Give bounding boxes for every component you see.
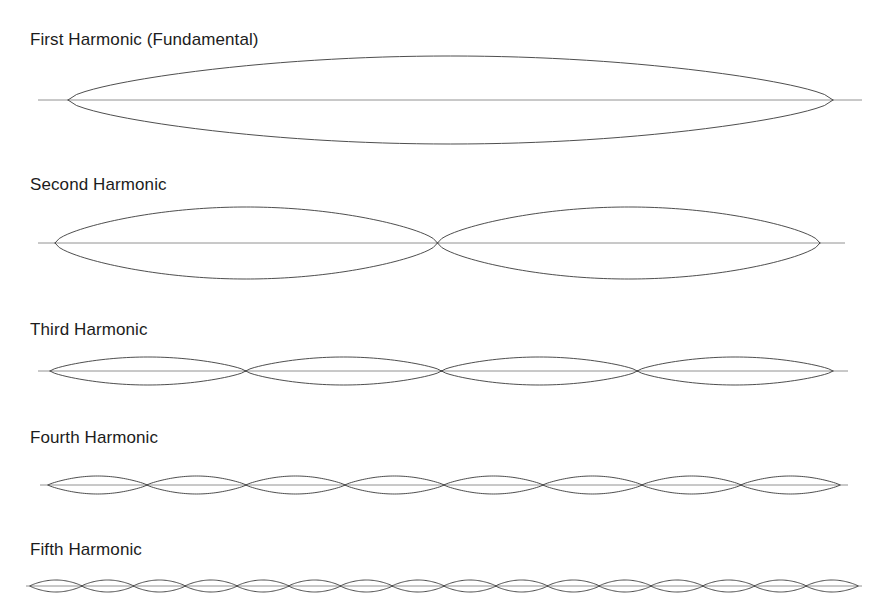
harmonics-figure: First Harmonic (Fundamental)Second Harmo…: [0, 0, 887, 616]
standing-wave-figure: [0, 572, 887, 600]
wave-trough-curve: [68, 100, 833, 144]
harmonic-label: Second Harmonic: [30, 175, 167, 195]
wave-crest-curve: [68, 56, 833, 100]
wave-crest-curve: [48, 476, 840, 485]
harmonic-label: First Harmonic (Fundamental): [30, 30, 259, 50]
harmonic-label: Fifth Harmonic: [30, 540, 142, 560]
wave-crest-curve: [50, 357, 833, 371]
wave-trough-curve: [55, 243, 820, 279]
standing-wave-figure: [0, 349, 887, 393]
wave-crest-curve: [55, 207, 820, 243]
wave-trough-curve: [30, 586, 858, 592]
wave-trough-curve: [48, 485, 840, 494]
standing-wave-figure: [0, 199, 887, 287]
wave-trough-curve: [50, 371, 833, 385]
harmonic-label: Third Harmonic: [30, 320, 148, 340]
harmonic-label: Fourth Harmonic: [30, 428, 158, 448]
wave-crest-curve: [30, 580, 858, 586]
standing-wave-figure: [0, 468, 887, 502]
standing-wave-figure: [0, 48, 887, 152]
